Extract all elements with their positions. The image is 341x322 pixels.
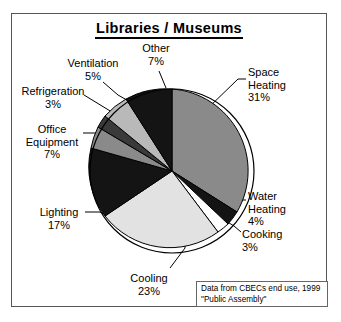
pie-label-lighting-pct: 17%	[26, 219, 92, 232]
pie-label-other: Other 7%	[126, 42, 186, 67]
pie-label-water-pct: 4%	[248, 215, 310, 228]
pie-label-lighting-name: Lighting	[26, 206, 92, 219]
pie-label-other-pct: 7%	[126, 55, 186, 68]
pie-slices	[89, 89, 248, 248]
pie-label-space-heating: Space Heating 31%	[248, 66, 310, 104]
pie-label-cooking: Cooking 3%	[242, 228, 304, 253]
pie-label-space-pct: 31%	[248, 91, 310, 104]
pie-label-cooling-pct: 23%	[118, 285, 180, 298]
pie-label-ventilation-pct: 5%	[56, 70, 130, 83]
pie-label-ventilation-name: Ventilation	[56, 57, 130, 70]
pie-label-office-pct: 7%	[12, 148, 92, 161]
pie-label-water-line1: Water	[248, 190, 310, 203]
pie-label-other-name: Other	[126, 42, 186, 55]
pie-label-office-equipment: Office Equipment 7%	[12, 123, 92, 161]
source-note: Data from CBECs end use, 1999 "Public As…	[196, 281, 328, 307]
pie-label-water-line2: Heating	[248, 203, 310, 216]
pie-label-space-line2: Heating	[248, 79, 310, 92]
pie-label-refrigeration-name: Refrigeration	[14, 85, 92, 98]
pie-label-cooling: Cooling 23%	[118, 272, 180, 297]
source-note-line-2: "Public Assembly"	[201, 295, 324, 306]
pie-label-refrigeration-pct: 3%	[14, 98, 92, 111]
pie-label-office-line2: Equipment	[12, 136, 92, 149]
pie-label-ventilation: Ventilation 5%	[56, 57, 130, 82]
pie-label-lighting: Lighting 17%	[26, 206, 92, 231]
source-note-line-1: Data from CBECs end use, 1999	[201, 284, 324, 295]
pie-label-cooking-pct: 3%	[242, 241, 304, 254]
pie-label-space-line1: Space	[248, 66, 310, 79]
pie-label-office-line1: Office	[12, 123, 92, 136]
pie-label-water-heating: Water Heating 4%	[248, 190, 310, 228]
leader-line-other	[159, 71, 166, 88]
pie-label-cooking-name: Cooking	[242, 228, 304, 241]
pie-label-cooling-name: Cooling	[118, 272, 180, 285]
pie-label-refrigeration: Refrigeration 3%	[14, 85, 92, 110]
